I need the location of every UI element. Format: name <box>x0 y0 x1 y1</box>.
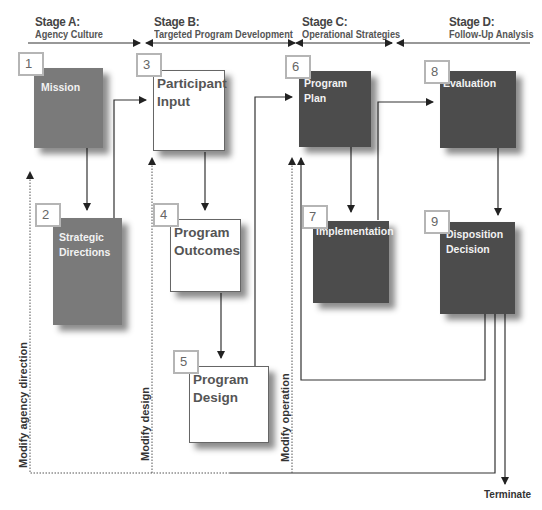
box-mission-label: Mission <box>41 80 99 95</box>
box-disposition-decision-label: Disposition Decision <box>446 227 506 257</box>
modify-design-label: Modify design <box>139 387 151 461</box>
box-8-number: 8 <box>424 60 450 84</box>
box-disposition-decision: Disposition Decision <box>440 222 515 314</box>
box-program-plan: Program Plan <box>299 71 371 147</box>
box-9-number: 9 <box>424 210 450 234</box>
box-participant-input: Participant Input <box>153 70 225 151</box>
box-6-number: 6 <box>285 55 311 79</box>
box-evaluation-label: Evaluation <box>443 76 512 91</box>
box-evaluation: Evaluation <box>440 71 516 148</box>
modify-operation-label: Modify operation <box>279 373 291 462</box>
box-participant-input-label: Participant Input <box>157 75 223 110</box>
box-program-outcomes: Program Outcomes <box>170 219 241 292</box>
box-strategic-directions-label: Strategic Directions <box>59 230 114 260</box>
box-strategic-directions: Strategic Directions <box>53 218 122 325</box>
arrow-5-to-6 <box>255 97 292 366</box>
box-program-design: Program Design <box>189 366 269 443</box>
arrow-2-to-3 <box>114 100 146 218</box>
box-3-number: 3 <box>136 53 162 77</box>
box-program-outcomes-label: Program Outcomes <box>174 224 240 259</box>
terminate-label: Terminate <box>484 489 531 500</box>
box-4-number: 4 <box>153 203 179 227</box>
box-mission: Mission <box>34 68 103 148</box>
box-5-number: 5 <box>173 350 199 374</box>
box-2-number: 2 <box>35 203 61 227</box>
box-implementation: Implementation <box>313 221 389 303</box>
box-7-number: 7 <box>302 205 328 229</box>
box-1-number: 1 <box>18 52 44 76</box>
modify-agency-direction-label: Modify agency direction <box>17 342 29 468</box>
box-program-design-label: Program Design <box>193 371 253 406</box>
arrow-7-to-8 <box>378 102 433 220</box>
box-program-plan-label: Program Plan <box>304 76 367 106</box>
